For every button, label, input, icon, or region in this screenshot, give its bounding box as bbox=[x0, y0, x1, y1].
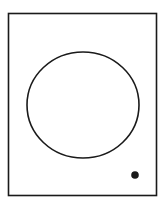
rectangle-frame bbox=[9, 14, 157, 196]
diagram-canvas bbox=[0, 0, 166, 198]
small-dot bbox=[131, 171, 139, 179]
large-circle bbox=[27, 52, 139, 158]
